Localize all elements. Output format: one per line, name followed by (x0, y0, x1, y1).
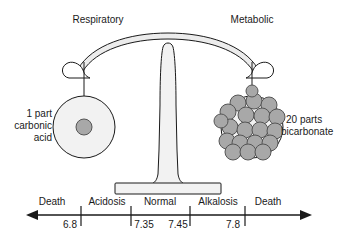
tick-value-7-45: 7.45 (154, 219, 202, 230)
balance-stand (115, 43, 221, 194)
zone-label-normal: Normal (130, 196, 190, 207)
zone-label-acidosis: Acidosis (77, 196, 137, 207)
label-right-pan-line2: bicarbonate (281, 126, 333, 138)
particle-carbonic-acid (76, 119, 92, 135)
zone-label-death-right: Death (238, 196, 298, 207)
left-pan-carbonic-acid (53, 96, 115, 158)
zone-label-death-left: Death (22, 196, 82, 207)
label-respiratory: Respiratory (58, 14, 138, 26)
label-right-pan-line1: 20 parts (286, 114, 322, 126)
label-metabolic: Metabolic (212, 14, 292, 26)
axis-arrow-right (300, 210, 312, 220)
label-left-pan-line3: acid (0, 132, 52, 144)
tick-value-7-8: 7.8 (209, 219, 257, 230)
right-pan-bicarbonate (214, 85, 285, 160)
tick-value-6-8: 6.8 (46, 219, 94, 230)
label-left-pan-line2: carbonic (0, 120, 52, 132)
axis-arrow-left (26, 210, 38, 220)
particle-group-bicarbonate (214, 85, 285, 160)
balance-scale-diagram: Respiratory Metabolic 1 part carbonic ac… (0, 0, 338, 241)
label-left-pan-line1: 1 part (0, 108, 52, 120)
